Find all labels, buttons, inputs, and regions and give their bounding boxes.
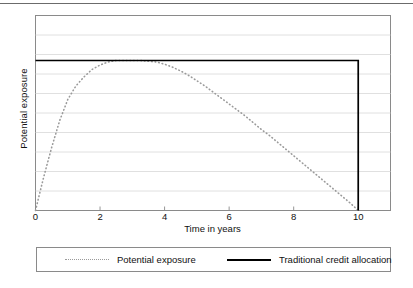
dotted-line-icon	[65, 255, 109, 265]
chart-legend: Potential exposure Traditional credit al…	[36, 247, 391, 272]
x-tick-label: 10	[343, 211, 373, 222]
chart-plot-area: Potential exposure 0246810 Time in years	[0, 8, 413, 240]
legend-item-traditional-credit-allocation: Traditional credit allocation	[227, 248, 392, 271]
plot-svg	[0, 8, 413, 240]
solid-line-icon	[227, 255, 271, 265]
legend-label: Potential exposure	[117, 254, 196, 265]
figure-container: Potential exposure 0246810 Time in years…	[0, 0, 413, 288]
x-tick-label: 4	[150, 211, 180, 222]
x-axis-title: Time in years	[35, 223, 390, 234]
x-tick-label: 0	[21, 211, 51, 222]
top-divider-rule	[0, 3, 413, 4]
x-tick-label: 2	[85, 211, 115, 222]
legend-row: Potential exposure Traditional credit al…	[37, 248, 390, 271]
x-tick-label: 8	[279, 211, 309, 222]
x-tick-label: 6	[214, 211, 244, 222]
legend-item-potential-exposure: Potential exposure	[65, 248, 196, 271]
legend-label: Traditional credit allocation	[279, 254, 392, 265]
